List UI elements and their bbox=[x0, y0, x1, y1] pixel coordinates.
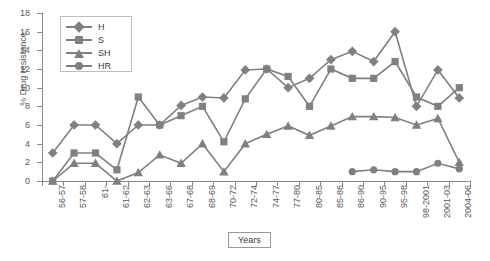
y-tick-label: 10 bbox=[20, 83, 30, 93]
data-point bbox=[305, 131, 314, 139]
chart-legend: H S SH HR bbox=[60, 16, 132, 72]
data-point bbox=[156, 121, 163, 128]
legend-label: SH bbox=[98, 48, 111, 58]
data-point bbox=[306, 103, 313, 110]
series-sh bbox=[48, 112, 464, 185]
legend-item-sh: SH bbox=[66, 47, 126, 59]
y-tick-label: 2 bbox=[25, 157, 30, 167]
diamond-marker-icon bbox=[66, 21, 92, 33]
y-tick-label: 4 bbox=[25, 139, 30, 149]
legend-label: H bbox=[98, 22, 105, 32]
series-hr bbox=[349, 160, 463, 176]
series-s bbox=[49, 58, 463, 185]
x-tick-label: 57-58 bbox=[78, 185, 88, 208]
x-tick-label: 61- bbox=[100, 185, 110, 198]
data-point bbox=[434, 160, 441, 167]
legend-item-s: S bbox=[66, 34, 126, 46]
data-point bbox=[455, 158, 464, 166]
data-point bbox=[327, 65, 334, 72]
x-tick-label: 2001-03 bbox=[442, 185, 452, 218]
data-point bbox=[434, 103, 441, 110]
data-point bbox=[392, 168, 399, 175]
legend-label: S bbox=[98, 35, 104, 45]
x-tick-label: 68-69 bbox=[207, 185, 217, 208]
data-point bbox=[326, 121, 335, 129]
data-point bbox=[370, 75, 377, 82]
data-point bbox=[155, 150, 164, 158]
x-tick-label: 85-86 bbox=[335, 185, 345, 208]
data-point bbox=[413, 168, 420, 175]
x-axis-title-box: Years bbox=[228, 232, 271, 248]
data-point bbox=[198, 139, 207, 147]
data-point bbox=[242, 95, 249, 102]
x-tick-label: 70-72 bbox=[228, 185, 238, 208]
x-tick-label: 77-80 bbox=[292, 185, 302, 208]
y-tick-label: 12 bbox=[20, 64, 30, 74]
y-tick-label: 18 bbox=[20, 8, 30, 18]
data-point bbox=[283, 121, 292, 129]
triangle-marker-icon bbox=[66, 47, 92, 59]
y-tick-label: 8 bbox=[25, 101, 30, 111]
data-point bbox=[349, 168, 356, 175]
x-tick-label: 56-57 bbox=[57, 185, 67, 208]
data-point bbox=[349, 75, 356, 82]
data-point bbox=[456, 165, 463, 172]
x-tick-label: 61-62 bbox=[121, 185, 131, 208]
data-point bbox=[412, 101, 422, 111]
legend-item-hr: HR bbox=[66, 60, 126, 72]
x-tick-label: 90-95 bbox=[378, 185, 388, 208]
x-tick-label: 63-66 bbox=[164, 185, 174, 208]
x-tick-label: 62-63 bbox=[142, 185, 152, 208]
data-point bbox=[199, 103, 206, 110]
square-marker-icon bbox=[66, 34, 92, 46]
legend-label: HR bbox=[98, 61, 111, 71]
x-tick-label: 74-77 bbox=[271, 185, 281, 208]
data-point bbox=[92, 149, 99, 156]
data-point bbox=[347, 46, 357, 56]
data-point bbox=[71, 149, 78, 156]
data-point bbox=[241, 139, 250, 147]
series-line bbox=[352, 163, 459, 171]
data-point bbox=[178, 112, 185, 119]
chart-figure: % Drug resistance 024681012141618 56-575… bbox=[0, 0, 490, 261]
data-point bbox=[263, 65, 270, 72]
y-tick-label: 16 bbox=[20, 27, 30, 37]
x-tick-label: 86-90 bbox=[356, 185, 366, 208]
data-point bbox=[456, 84, 463, 91]
data-point bbox=[135, 93, 142, 100]
x-tick-label: 95-98 bbox=[399, 185, 409, 208]
circle-marker-icon bbox=[66, 60, 92, 72]
data-point bbox=[198, 92, 208, 102]
x-tick-label: 80-85 bbox=[314, 185, 324, 208]
data-point bbox=[413, 93, 420, 100]
x-tick-label: 67-68 bbox=[185, 185, 195, 208]
y-tick-label: 6 bbox=[25, 120, 30, 130]
y-tick-label: 0 bbox=[25, 176, 30, 186]
data-point bbox=[220, 138, 227, 145]
y-tick-label: 14 bbox=[20, 45, 30, 55]
legend-item-h: H bbox=[66, 21, 126, 33]
data-point bbox=[285, 73, 292, 80]
x-tick-label: 2004-06 bbox=[463, 185, 473, 218]
x-tick-label: 72-74 bbox=[249, 185, 259, 208]
data-point bbox=[113, 166, 120, 173]
data-point bbox=[433, 114, 442, 122]
data-point bbox=[370, 166, 377, 173]
data-point bbox=[392, 58, 399, 65]
x-tick-label: 98-2001 bbox=[421, 185, 431, 218]
